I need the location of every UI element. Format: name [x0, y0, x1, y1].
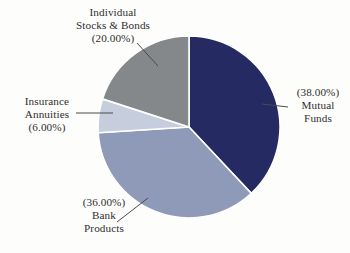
pie-slices: [98, 36, 280, 218]
callout-percent: (38.00%): [288, 86, 348, 99]
callout-bank-products: (36.00%) Bank Products: [56, 196, 152, 236]
callout-line-2: Bank: [56, 209, 152, 222]
callout-insurance-annuities: Insurance Annuities (6.00%): [8, 95, 86, 135]
callout-percent: (20.00%): [52, 32, 174, 45]
callout-individual-stocks-bonds: Individual Stocks & Bonds (20.00%): [52, 6, 174, 46]
callout-line-2: Stocks & Bonds: [52, 19, 174, 32]
callout-line-2: Mutual: [288, 99, 348, 112]
callout-line-3: Funds: [288, 112, 348, 125]
pie-chart-figure: Individual Stocks & Bonds (20.00%) Insur…: [0, 0, 350, 253]
callout-mutual-funds: (38.00%) Mutual Funds: [288, 86, 348, 126]
callout-line-1: Insurance: [8, 95, 86, 108]
callout-percent: (36.00%): [56, 196, 152, 209]
callout-line-3: Products: [56, 222, 152, 235]
callout-line-2: Annuities: [8, 108, 86, 121]
callout-line-1: Individual: [52, 6, 174, 19]
callout-percent: (6.00%): [8, 121, 86, 134]
